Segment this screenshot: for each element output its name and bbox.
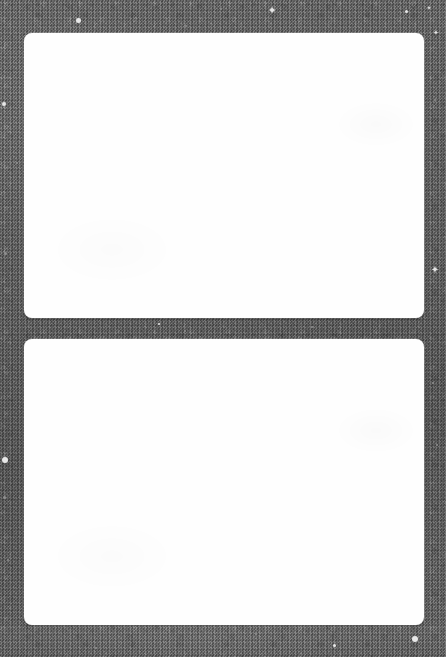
dust-speck: [76, 18, 81, 23]
dust-speck: [2, 102, 6, 106]
dust-speck: [255, 633, 257, 635]
dust-speck: [158, 323, 160, 325]
bottom-margin-band: [0, 625, 446, 657]
dust-speck: [432, 382, 434, 384]
photo-window-bottom[interactable]: [24, 339, 424, 625]
dust-speck: [184, 330, 186, 332]
dust-speck: [4, 252, 7, 255]
dust-speck: [405, 10, 408, 13]
dust-speck: [436, 444, 438, 446]
dust-speck: [7, 559, 9, 561]
photo-window-top[interactable]: [24, 33, 424, 318]
dust-speck: [412, 636, 418, 642]
dust-speck: [3, 496, 6, 499]
dust-speck: [434, 99, 436, 101]
dust-speck: [16, 162, 18, 164]
dust-speck: [220, 8, 222, 10]
star-dust-speck: ✦: [267, 5, 278, 16]
dust-speck: [185, 25, 187, 27]
dust-speck: [95, 647, 97, 649]
dust-speck: [2, 457, 8, 463]
dust-speck: [311, 326, 313, 328]
dust-speck: [333, 644, 336, 647]
scanned-album-page: ✦✦✦✦: [0, 0, 446, 657]
star-dust-speck: ✦: [426, 5, 432, 11]
star-dust-speck: ✦: [430, 265, 440, 275]
star-dust-speck: ✦: [433, 30, 440, 37]
